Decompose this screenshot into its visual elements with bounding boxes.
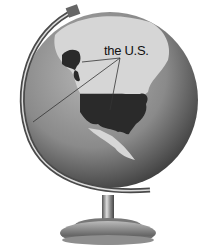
globe-stand bbox=[60, 195, 156, 245]
globe-illustration: the U.S. bbox=[0, 0, 201, 249]
us-label: the U.S. bbox=[104, 43, 149, 58]
globe-graphic bbox=[0, 0, 201, 249]
